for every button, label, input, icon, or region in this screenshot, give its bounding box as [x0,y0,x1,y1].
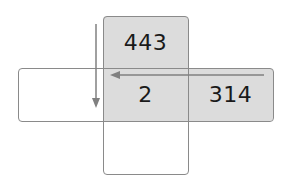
vertical-arrow-icon [92,24,100,108]
horizontal-arrow-icon [110,71,264,79]
arrows-layer [0,0,290,194]
